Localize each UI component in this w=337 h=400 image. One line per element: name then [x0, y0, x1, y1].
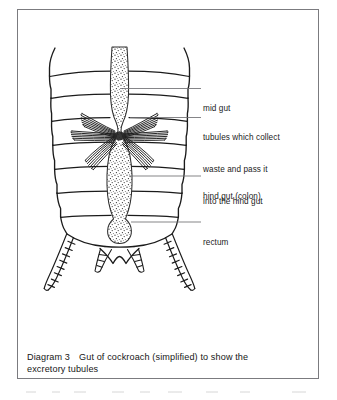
cercus-left: [44, 235, 75, 291]
anal-styles: [95, 249, 144, 272]
caption-number: Diagram 3: [27, 352, 70, 362]
label-tubules-line-1: tubules which collect: [203, 133, 280, 144]
cercus-right: [164, 235, 195, 291]
cockroach-gut-illustration: [0, 0, 337, 400]
caption-text-line-1: Gut of cockroach (simplified) to show th…: [79, 352, 248, 362]
gut-tube: [107, 47, 132, 244]
tubule-junction: [113, 132, 125, 141]
label-rectum-line-1: rectum: [203, 238, 229, 249]
label-rectum: rectum: [203, 217, 229, 270]
caption-text-line-2: excretory tubules: [27, 363, 307, 375]
gut-outline: [107, 47, 132, 244]
figure-root: mid gut tubules which collect waste and …: [0, 0, 337, 400]
label-hind-gut-line-1: hind gut (colon): [203, 192, 261, 203]
scan-artifact-text: [0, 388, 337, 397]
figure-caption: Diagram 3Gut of cockroach (simplified) t…: [27, 351, 307, 376]
